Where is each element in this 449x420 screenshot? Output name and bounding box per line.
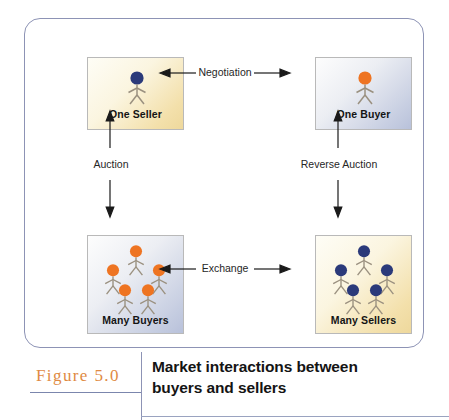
connector-label-auction: Auction	[70, 158, 152, 170]
node-many-sellers[interactable]: Many Sellers	[315, 235, 412, 334]
connector-label-negotiation: Negotiation	[175, 66, 275, 78]
stick-figure-seller-icon	[123, 70, 151, 106]
figure-caption-area: Figure 5.0 Market interactions between b…	[0, 352, 449, 420]
caption-line-2: buyers and sellers	[152, 379, 286, 396]
stick-figure-seller-icon	[363, 283, 389, 316]
node-label-many-buyers: Many Buyers	[88, 314, 183, 326]
node-many-buyers[interactable]: Many Buyers	[87, 235, 184, 334]
connector-label-reverse-auction: Reverse Auction	[285, 158, 393, 170]
connector-label-exchange: Exchange	[175, 262, 275, 274]
stick-figure-buyer-icon	[135, 283, 161, 316]
figure-caption-text: Market interactions between buyers and s…	[152, 356, 442, 399]
node-label-many-sellers: Many Sellers	[316, 314, 411, 326]
figure-number: Figure 5.0	[36, 366, 120, 386]
caption-line-1: Market interactions between	[152, 358, 358, 375]
stick-figure-buyer-icon	[351, 70, 379, 106]
caption-bottom-rule	[141, 416, 449, 417]
figure-number-rule	[30, 392, 141, 393]
caption-divider	[141, 352, 142, 420]
